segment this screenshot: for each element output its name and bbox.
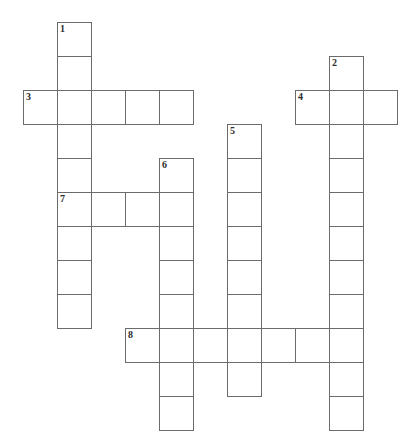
crossword-cell[interactable]: 8 <box>125 328 160 363</box>
cell-number-8: 8 <box>128 329 133 340</box>
crossword-cell[interactable] <box>329 124 364 159</box>
crossword-cell[interactable] <box>159 362 194 397</box>
crossword-cell[interactable] <box>159 396 194 431</box>
crossword-cell[interactable]: 3 <box>23 90 58 125</box>
crossword-cell[interactable] <box>57 226 92 261</box>
cell-number-4: 4 <box>298 91 303 102</box>
crossword-cell[interactable] <box>329 260 364 295</box>
crossword-cell[interactable] <box>57 90 92 125</box>
crossword-cell[interactable] <box>159 260 194 295</box>
crossword-cell[interactable] <box>193 328 228 363</box>
crossword-cell[interactable] <box>329 396 364 431</box>
crossword-cell[interactable] <box>125 90 160 125</box>
crossword-cell[interactable]: 1 <box>57 22 92 57</box>
cell-number-3: 3 <box>26 91 31 102</box>
crossword-cell[interactable] <box>227 362 262 397</box>
crossword-cell[interactable]: 2 <box>329 56 364 91</box>
crossword-cell[interactable] <box>227 294 262 329</box>
crossword-cell[interactable] <box>295 328 330 363</box>
crossword-cell[interactable] <box>125 192 160 227</box>
crossword-cell[interactable]: 5 <box>227 124 262 159</box>
crossword-grid[interactable]: 12345678 <box>0 0 407 447</box>
crossword-cell[interactable] <box>227 226 262 261</box>
crossword-cell[interactable] <box>329 158 364 193</box>
crossword-cell[interactable] <box>159 192 194 227</box>
crossword-cell[interactable] <box>57 260 92 295</box>
cell-number-7: 7 <box>60 193 65 204</box>
crossword-cell[interactable] <box>57 56 92 91</box>
crossword-cell[interactable] <box>91 90 126 125</box>
crossword-cell[interactable] <box>329 294 364 329</box>
crossword-puzzle: 12345678 <box>0 0 407 447</box>
crossword-cell[interactable] <box>329 362 364 397</box>
crossword-cell[interactable]: 6 <box>159 158 194 193</box>
crossword-cell[interactable]: 4 <box>295 90 330 125</box>
crossword-cell[interactable] <box>261 328 296 363</box>
crossword-cell[interactable] <box>159 90 194 125</box>
crossword-cell[interactable] <box>329 90 364 125</box>
cell-number-1: 1 <box>60 23 65 34</box>
cell-number-2: 2 <box>332 57 337 68</box>
cell-number-5: 5 <box>230 125 235 136</box>
crossword-cell[interactable] <box>159 328 194 363</box>
crossword-cell[interactable] <box>57 294 92 329</box>
cell-number-6: 6 <box>162 159 167 170</box>
crossword-cell[interactable]: 7 <box>57 192 92 227</box>
crossword-cell[interactable] <box>329 192 364 227</box>
crossword-cell[interactable] <box>57 124 92 159</box>
crossword-cell[interactable] <box>227 260 262 295</box>
crossword-cell[interactable] <box>159 294 194 329</box>
crossword-cell[interactable] <box>363 90 398 125</box>
crossword-cell[interactable] <box>329 328 364 363</box>
crossword-cell[interactable] <box>227 192 262 227</box>
crossword-cell[interactable] <box>227 328 262 363</box>
crossword-cell[interactable] <box>159 226 194 261</box>
crossword-cell[interactable] <box>227 158 262 193</box>
crossword-cell[interactable] <box>329 226 364 261</box>
crossword-cell[interactable] <box>57 158 92 193</box>
crossword-cell[interactable] <box>91 192 126 227</box>
